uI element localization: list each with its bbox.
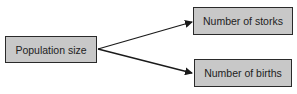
edge-population-to-births (98, 49, 192, 73)
node-population-size: Population size (5, 36, 97, 63)
node-label: Number of storks (203, 15, 283, 27)
node-label: Population size (15, 44, 86, 56)
node-number-of-births: Number of births (194, 59, 292, 87)
node-label: Number of births (204, 67, 282, 79)
node-number-of-storks: Number of storks (193, 7, 293, 35)
edge-population-to-storks (98, 22, 192, 49)
